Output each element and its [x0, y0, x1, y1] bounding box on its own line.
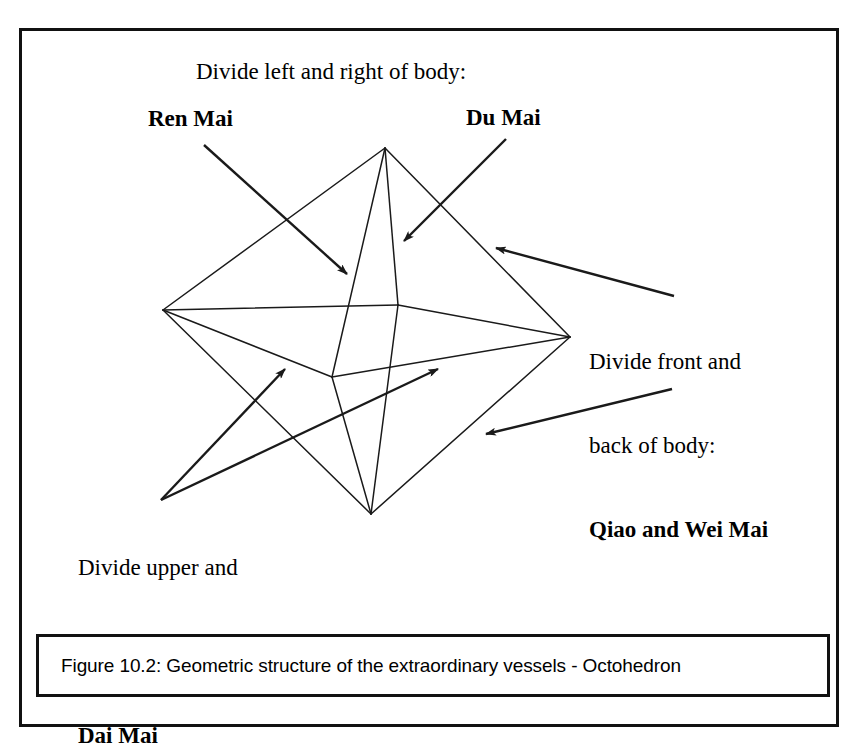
- label-qiao-and-wei-mai: Qiao and Wei Mai: [589, 516, 768, 544]
- label-divide-upper-lower: Divide upper and lower body: Dai Mai: [78, 498, 238, 747]
- label-front-back-line2: back of body:: [589, 432, 768, 460]
- figure-page: Divide left and right of body: Ren Mai D…: [0, 0, 855, 747]
- label-divide-left-right: Divide left and right of body:: [196, 58, 466, 86]
- figure-caption-box: Figure 10.2: Geometric structure of the …: [36, 634, 830, 697]
- label-dai-mai: Dai Mai: [78, 722, 238, 747]
- label-upper-lower-line1: Divide upper and: [78, 554, 238, 582]
- label-du-mai: Du Mai: [466, 104, 541, 132]
- figure-caption-text: Figure 10.2: Geometric structure of the …: [39, 655, 681, 677]
- label-divide-front-back: Divide front and back of body: Qiao and …: [589, 292, 768, 601]
- label-ren-mai: Ren Mai: [148, 105, 233, 133]
- label-front-back-line1: Divide front and: [589, 348, 768, 376]
